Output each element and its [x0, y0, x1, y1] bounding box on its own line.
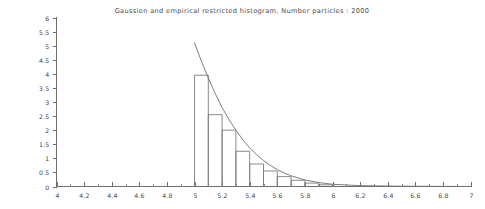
x-tick-label: 5.4	[245, 192, 255, 199]
histogram-bar	[222, 130, 236, 186]
x-tick-label: 4.2	[79, 192, 89, 199]
histogram-bar	[250, 164, 264, 187]
y-tick-label: 5	[45, 43, 49, 50]
histogram-bar	[195, 75, 209, 186]
y-axis-ticks	[53, 19, 57, 188]
x-tick-label: 6.8	[438, 192, 448, 199]
y-tick-label: 6	[45, 15, 49, 22]
y-tick-label: 1	[45, 155, 49, 162]
y-axis-tick-labels: 00.511.522.533.544.555.56	[39, 15, 49, 191]
x-axis-tick-labels: 44.24.44.64.855.25.45.65.866.26.46.66.87	[55, 192, 473, 199]
y-tick-label: 4.5	[39, 57, 49, 64]
x-tick-label: 4.6	[134, 192, 144, 199]
y-axis: 00.511.522.533.544.555.56	[39, 15, 56, 191]
y-tick-label: 3.5	[39, 85, 49, 92]
x-tick-label: 4.4	[107, 192, 117, 199]
x-tick-label: 6.4	[383, 192, 393, 199]
chart-title: Gaussien and empirical restricted histog…	[115, 7, 370, 15]
x-tick-label: 4	[55, 192, 59, 199]
x-axis: 44.24.44.64.855.25.45.65.866.26.46.66.87	[55, 182, 473, 199]
y-tick-label: 2.5	[39, 113, 49, 120]
x-tick-label: 4.8	[162, 192, 172, 199]
histogram-bars	[195, 75, 333, 186]
y-tick-label: 1.5	[39, 141, 49, 148]
y-tick-label: 4	[45, 71, 49, 78]
x-tick-label: 5.6	[272, 192, 282, 199]
x-tick-label: 7	[469, 192, 473, 199]
x-tick-label: 6	[331, 192, 335, 199]
x-tick-label: 5.2	[217, 192, 227, 199]
x-tick-label: 5	[193, 192, 197, 199]
y-tick-label: 5.5	[39, 29, 49, 36]
y-tick-label: 2	[45, 127, 49, 134]
histogram-bar	[208, 115, 222, 187]
chart-figure: Gaussien and empirical restricted histog…	[0, 0, 485, 209]
histogram-bar	[277, 177, 291, 187]
x-tick-label: 6.6	[410, 192, 420, 199]
chart-canvas: Gaussien and empirical restricted histog…	[0, 0, 485, 209]
y-tick-label: 0	[45, 184, 49, 191]
x-tick-label: 5.8	[300, 192, 310, 199]
histogram-bar	[264, 171, 278, 186]
histogram-bar	[291, 180, 305, 186]
histogram-bar	[305, 183, 319, 186]
histogram-bar	[236, 151, 250, 186]
y-tick-label: 0.5	[39, 169, 49, 176]
y-tick-label: 3	[45, 99, 49, 106]
x-tick-label: 6.2	[355, 192, 365, 199]
